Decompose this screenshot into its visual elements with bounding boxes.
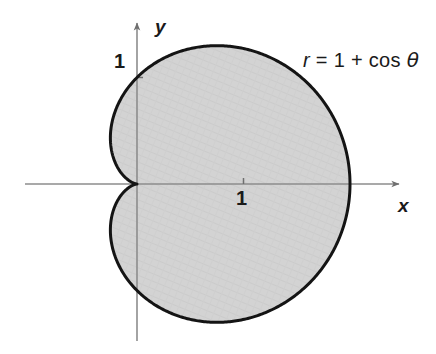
y-axis-label: y <box>155 17 166 36</box>
equation-annotation: r = 1 + cos θ <box>303 50 419 70</box>
y-tick-label-1: 1 <box>114 51 125 71</box>
equation-variable-r: r <box>303 49 310 71</box>
equation-theta-symbol: θ <box>407 48 420 72</box>
equation-plus-sign: + <box>351 49 363 71</box>
equation-equals-sign: = <box>316 49 328 71</box>
equation-cos-function: cos <box>369 49 401 71</box>
x-axis-label: x <box>398 196 409 215</box>
equation-constant-one: 1 <box>334 49 345 71</box>
cardioid-figure: y x 1 1 r = 1 + cos θ <box>0 0 436 354</box>
x-tick-label-1: 1 <box>236 188 247 208</box>
